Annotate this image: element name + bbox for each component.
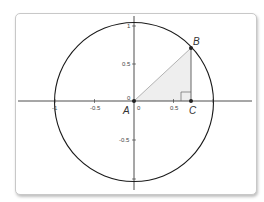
unit-circle-diagram: -1 -0.5 0 0.5 1 0.5 0 -0.5 A B C [0, 0, 264, 202]
x-tick-label-05: 0.5 [170, 105, 179, 111]
y-tick-label-0: 0 [127, 95, 131, 101]
x-tick-label-0: 0 [137, 105, 141, 111]
y-tick-label-05: 0.5 [122, 61, 131, 67]
label-c: C [189, 105, 197, 116]
point-a [132, 99, 136, 103]
y-tick-label-neg05: -0.5 [119, 137, 130, 143]
label-b: B [193, 36, 200, 47]
label-a: A [122, 105, 130, 116]
x-tick-label-neg1: -1 [52, 105, 58, 111]
point-c [189, 99, 193, 103]
y-tick-label-1: 1 [127, 23, 131, 29]
x-tick-label-neg05: -0.5 [90, 105, 101, 111]
